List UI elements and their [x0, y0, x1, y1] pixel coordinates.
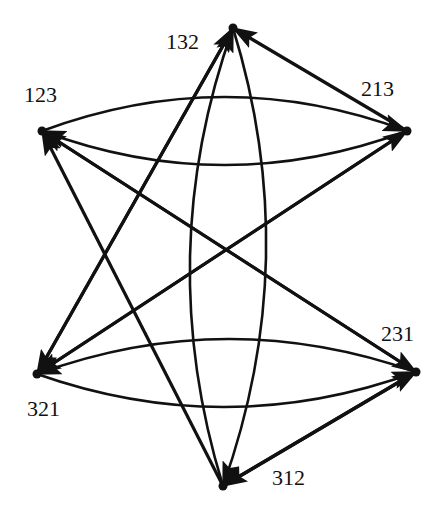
node-label-123: 123 — [24, 84, 57, 106]
edges-layer — [37, 28, 416, 486]
node-213 — [403, 127, 412, 136]
node-132 — [229, 24, 238, 33]
node-321 — [33, 370, 42, 379]
edge-321-to-231 — [37, 372, 416, 407]
node-label-132: 132 — [166, 31, 199, 53]
edge-123-to-213 — [42, 97, 407, 131]
edge-231-to-321 — [37, 339, 416, 374]
node-312 — [219, 482, 228, 491]
node-231 — [412, 368, 421, 377]
node-label-312: 312 — [272, 467, 305, 489]
edge-213-to-321 — [37, 131, 407, 374]
edge-123-to-231 — [42, 131, 416, 372]
edge-132-to-321 — [37, 28, 233, 374]
node-label-321: 321 — [27, 398, 60, 420]
node-label-213: 213 — [361, 78, 394, 100]
edge-312-to-231 — [223, 372, 416, 486]
node-label-231: 231 — [381, 323, 414, 345]
edge-213-to-123 — [42, 131, 407, 165]
node-123 — [38, 127, 47, 136]
